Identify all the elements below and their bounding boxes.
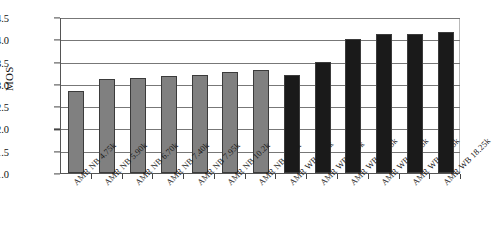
- x-tick-mark: [91, 174, 92, 179]
- y-tick-label-1: 1.0: [0, 169, 9, 180]
- y-tick-label-3: 3.0: [0, 79, 9, 90]
- y-tick-label-3-5: 3.5: [0, 57, 9, 68]
- x-tick-mark: [399, 174, 400, 179]
- y-tick-label-4-5: 4.5: [0, 13, 9, 24]
- y-tick-label-2: 2.0: [0, 124, 9, 135]
- x-tick-mark: [368, 174, 369, 179]
- y-tick-label-2-5: 2.5: [0, 102, 9, 113]
- x-tick-mark: [152, 174, 153, 179]
- gridline-4: [61, 40, 460, 41]
- gridline-4-5: [61, 18, 460, 19]
- y-tick-label-4: 4.0: [0, 35, 9, 46]
- x-tick-mark: [275, 174, 276, 179]
- y-tick-label-1-5: 1.5: [0, 146, 9, 157]
- gridline-3-5: [61, 63, 460, 64]
- x-tick-mark: [122, 174, 123, 179]
- bar: [68, 91, 84, 173]
- x-tick-mark: [245, 174, 246, 179]
